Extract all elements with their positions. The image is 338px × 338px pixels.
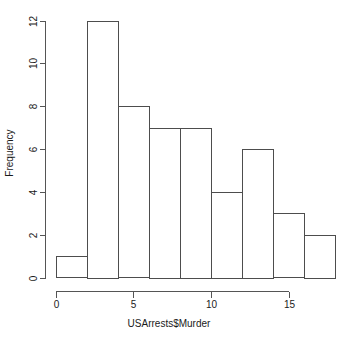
histogram-bar	[305, 236, 336, 279]
y-tick-label: 12	[28, 16, 39, 28]
x-tick-label: 15	[284, 299, 296, 310]
histogram-bars	[57, 22, 336, 279]
y-tick-label: 0	[28, 275, 39, 281]
x-tick-label: 0	[54, 299, 60, 310]
y-tick-label: 2	[28, 232, 39, 238]
y-axis-tick-labels: 024681012	[28, 16, 39, 282]
plot-canvas: 024681012 051015 USArrests$Murder Freque…	[0, 0, 338, 338]
y-axis	[40, 21, 46, 279]
histogram-figure: 024681012 051015 USArrests$Murder Freque…	[0, 0, 338, 338]
x-axis-ticks	[57, 292, 290, 298]
y-tick-label: 6	[28, 146, 39, 152]
x-tick-label: 5	[131, 299, 137, 310]
histogram-bar	[274, 214, 305, 278]
y-tick-label: 4	[28, 189, 39, 195]
y-tick-label: 10	[28, 58, 39, 70]
y-axis-ticks	[40, 22, 46, 279]
histogram-bar	[88, 22, 119, 279]
x-axis	[56, 292, 290, 298]
histogram-bar	[243, 150, 274, 279]
x-tick-label: 10	[206, 299, 218, 310]
histogram-bar	[181, 129, 212, 279]
x-axis-tick-labels: 051015	[54, 299, 296, 310]
histogram-bar	[119, 107, 150, 278]
histogram-bar	[212, 193, 243, 279]
x-axis-title: USArrests$Murder	[128, 318, 211, 329]
histogram-bar	[150, 129, 181, 279]
y-axis-title: Frequency	[4, 129, 15, 176]
y-tick-label: 8	[28, 103, 39, 109]
histogram-bar	[57, 257, 88, 278]
